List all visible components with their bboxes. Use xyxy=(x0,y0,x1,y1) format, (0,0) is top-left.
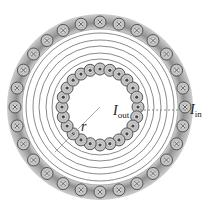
dot-icon xyxy=(60,105,63,108)
dot-icon xyxy=(79,72,82,75)
outer-wire xyxy=(131,24,143,36)
dot-icon xyxy=(117,138,120,141)
outer-wire xyxy=(11,120,23,132)
outer-wire xyxy=(57,24,69,36)
outer-wire xyxy=(160,48,172,60)
dot-icon xyxy=(65,86,68,89)
outer-wire xyxy=(94,16,106,28)
outer-wire xyxy=(41,167,53,179)
toroid-diagram: r Iout Iin xyxy=(0,0,216,212)
outer-wire xyxy=(17,138,29,150)
outer-wire xyxy=(28,154,40,166)
outer-wire xyxy=(57,178,69,190)
dot-icon xyxy=(98,143,101,146)
outer-wire xyxy=(113,184,125,196)
dot-icon xyxy=(131,86,134,89)
radius-label: r xyxy=(81,120,86,134)
outer-wire xyxy=(28,48,40,60)
outer-wire xyxy=(131,178,143,190)
outer-wire xyxy=(75,18,87,30)
dot-icon xyxy=(72,79,75,82)
dot-icon xyxy=(62,96,65,99)
outer-wire xyxy=(177,82,189,94)
dot-icon xyxy=(108,142,111,145)
outer-wire xyxy=(11,82,23,94)
inner-wire xyxy=(131,91,143,103)
dot-icon xyxy=(117,72,120,75)
dot-icon xyxy=(62,115,65,118)
outer-wire xyxy=(94,186,106,198)
outer-wire xyxy=(147,167,159,179)
outer-wire xyxy=(41,35,53,47)
outer-wire xyxy=(17,64,29,76)
dot-icon xyxy=(98,67,101,70)
dot-icon xyxy=(65,124,68,127)
toroid-svg xyxy=(0,0,216,212)
dot-icon xyxy=(89,142,92,145)
dot-icon xyxy=(136,105,139,108)
outer-wire xyxy=(171,64,183,76)
outer-wire xyxy=(171,138,183,150)
outer-wire xyxy=(160,154,172,166)
dot-icon xyxy=(135,115,138,118)
dot-icon xyxy=(89,69,92,72)
dot-icon xyxy=(79,138,82,141)
dot-icon xyxy=(125,79,128,82)
current-in-label: Iin xyxy=(190,103,202,119)
outer-wire xyxy=(75,184,87,196)
outer-wire xyxy=(147,35,159,47)
dot-icon xyxy=(108,69,111,72)
dot-icon xyxy=(131,124,134,127)
dot-icon xyxy=(135,96,138,99)
outer-wire xyxy=(177,120,189,132)
current-out-label: Iout xyxy=(113,104,129,120)
outer-wire xyxy=(9,101,21,113)
dot-icon xyxy=(125,132,128,135)
outer-wire xyxy=(113,18,125,30)
